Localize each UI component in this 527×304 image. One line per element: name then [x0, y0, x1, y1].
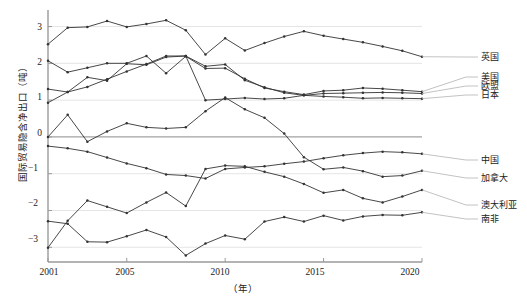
data-point [244, 49, 247, 52]
data-point [322, 92, 325, 95]
legend-leader-欧盟 [422, 86, 478, 94]
series-line-英国 [48, 20, 422, 56]
data-point [145, 229, 148, 232]
data-point [204, 65, 207, 68]
data-point [401, 151, 404, 154]
data-point [224, 96, 227, 99]
data-point [401, 195, 404, 198]
data-point [47, 60, 50, 63]
data-point [342, 166, 345, 169]
data-point [401, 214, 404, 217]
series-line-欧盟 [48, 56, 422, 95]
data-point [145, 63, 148, 66]
data-point [401, 50, 404, 53]
data-point [224, 234, 227, 237]
data-point [381, 214, 384, 217]
legend-leader-中国 [422, 154, 478, 160]
data-point [125, 235, 128, 238]
data-point [106, 20, 109, 23]
series-line-南非 [48, 212, 422, 255]
data-point [362, 97, 365, 100]
data-point [263, 86, 266, 89]
data-point [362, 170, 365, 173]
data-point [342, 219, 345, 222]
chart-figure: 国际贸易隐含净出口（吨） （年） 3 2 1 0 −1 −2 −3 2001 2… [0, 0, 527, 304]
data-point [106, 78, 109, 81]
data-point [263, 220, 266, 223]
data-point [224, 37, 227, 40]
data-point [47, 88, 50, 91]
data-point [303, 183, 306, 186]
series-line-澳大利亚 [48, 166, 422, 248]
data-point [145, 23, 148, 26]
data-point [283, 92, 286, 95]
legend-leader-澳大利亚 [422, 190, 478, 205]
data-point [381, 91, 384, 94]
data-point [165, 19, 168, 22]
data-point [381, 97, 384, 100]
data-point [106, 206, 109, 209]
data-point [224, 168, 227, 171]
data-point [342, 89, 345, 92]
data-point [145, 126, 148, 128]
data-point [185, 55, 188, 58]
data-point [86, 86, 89, 89]
data-point [165, 72, 168, 75]
legend-leader-南非 [422, 212, 478, 219]
data-point [125, 70, 128, 73]
data-point [106, 62, 109, 64]
data-point [66, 114, 69, 117]
data-point [401, 97, 404, 100]
data-point [342, 189, 345, 192]
data-point [106, 241, 109, 244]
legend-leader-美国 [422, 77, 478, 92]
data-point [125, 212, 128, 215]
data-point [185, 174, 188, 177]
data-point [145, 55, 148, 58]
data-point [342, 38, 345, 41]
data-point [145, 167, 148, 170]
data-point [165, 127, 168, 130]
data-point [362, 197, 365, 200]
data-point [86, 140, 89, 143]
data-point [66, 222, 69, 225]
data-point [125, 62, 128, 65]
data-point [106, 156, 109, 159]
data-point [263, 117, 266, 120]
data-point [185, 254, 188, 257]
data-point [381, 175, 384, 178]
data-point [283, 97, 286, 100]
data-point [47, 145, 50, 148]
data-point [322, 95, 325, 98]
data-point [47, 43, 50, 46]
data-point [342, 92, 345, 95]
data-point [381, 201, 384, 204]
data-point [283, 35, 286, 38]
data-point [322, 214, 325, 217]
data-point [66, 26, 69, 29]
data-point [66, 147, 69, 150]
data-point [165, 191, 168, 194]
data-point [66, 91, 69, 94]
data-point [125, 122, 128, 125]
data-point [165, 55, 168, 58]
data-point [283, 163, 286, 166]
data-point [244, 238, 247, 241]
data-point [322, 192, 325, 195]
data-point [47, 220, 50, 223]
data-point [145, 201, 148, 204]
data-point [204, 242, 207, 245]
data-point [362, 41, 365, 44]
data-point [86, 241, 89, 244]
data-point [224, 164, 227, 167]
data-point [362, 87, 365, 90]
data-point [362, 152, 365, 155]
data-point [244, 165, 247, 168]
data-point [303, 156, 306, 159]
data-point [204, 110, 207, 113]
series-line-美国 [48, 56, 422, 95]
data-point [86, 26, 89, 29]
data-point [66, 71, 69, 74]
data-point [303, 160, 306, 163]
data-point [47, 136, 50, 139]
